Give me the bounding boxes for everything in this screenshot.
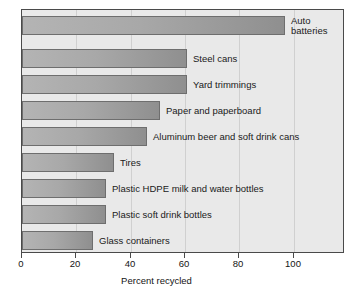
x-tick-label-80: 80 bbox=[233, 258, 244, 269]
plot-area: Autobatteries Steel cans Yard trimmings … bbox=[21, 9, 344, 253]
bar-row: Plastic soft drink bottles bbox=[22, 205, 343, 224]
bar-label-yard-trimmings: Yard trimmings bbox=[193, 79, 256, 90]
bar-label-plastic-soft-drink: Plastic soft drink bottles bbox=[112, 209, 212, 220]
bar-row: Paper and paperboard bbox=[22, 101, 343, 120]
bar-row: Plastic HDPE milk and water bottles bbox=[22, 179, 343, 198]
bar-label-plastic-hdpe: Plastic HDPE milk and water bottles bbox=[112, 183, 264, 194]
bar-row: Tires bbox=[22, 153, 343, 172]
x-axis: 0 20 40 60 80 100 bbox=[21, 253, 344, 259]
x-tick-label-0: 0 bbox=[18, 258, 23, 269]
bar-label-tires: Tires bbox=[120, 157, 141, 168]
x-axis-title: Percent recycled bbox=[0, 275, 361, 286]
bar-steel-cans[interactable] bbox=[22, 49, 187, 68]
bar-label-line: batteries bbox=[291, 25, 327, 36]
bar-row: Aluminum beer and soft drink cans bbox=[22, 127, 343, 146]
bar-row: Steel cans bbox=[22, 49, 343, 68]
x-tick-label-40: 40 bbox=[125, 258, 136, 269]
x-tick-label-60: 60 bbox=[179, 258, 190, 269]
bar-plastic-hdpe[interactable] bbox=[22, 179, 106, 198]
bar-row: Yard trimmings bbox=[22, 75, 343, 94]
bar-label-steel-cans: Steel cans bbox=[193, 53, 237, 64]
bar-label-paper-and-paperboard: Paper and paperboard bbox=[166, 105, 261, 116]
bar-label-aluminum-cans: Aluminum beer and soft drink cans bbox=[153, 131, 299, 142]
bar-tires[interactable] bbox=[22, 153, 114, 172]
x-tick-label-20: 20 bbox=[70, 258, 81, 269]
bar-plastic-soft-drink[interactable] bbox=[22, 205, 106, 224]
bar-yard-trimmings[interactable] bbox=[22, 75, 187, 94]
bar-row: Autobatteries bbox=[22, 16, 343, 35]
bar-auto-batteries[interactable] bbox=[22, 16, 285, 35]
x-axis-title-text: Percent recycled bbox=[121, 275, 192, 286]
x-tick-label-100: 100 bbox=[285, 258, 301, 269]
bar-aluminum-cans[interactable] bbox=[22, 127, 147, 146]
bar-row: Glass containers bbox=[22, 231, 343, 250]
bar-glass-containers[interactable] bbox=[22, 231, 93, 250]
bar-chart: Autobatteries Steel cans Yard trimmings … bbox=[0, 0, 361, 296]
bar-label-glass-containers: Glass containers bbox=[99, 235, 170, 246]
bar-label-auto-batteries: Autobatteries bbox=[291, 15, 337, 36]
bar-label-line: Auto bbox=[291, 14, 311, 25]
bar-paper-and-paperboard[interactable] bbox=[22, 101, 160, 120]
